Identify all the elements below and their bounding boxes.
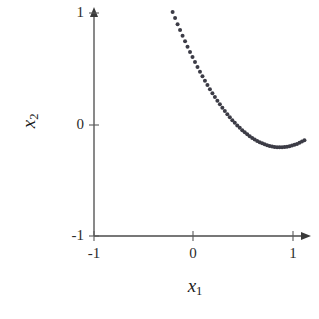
data-point xyxy=(191,55,195,59)
data-point xyxy=(171,10,175,14)
y-axis-title-base: x xyxy=(18,120,39,128)
x-axis-tick-label-0: 0 xyxy=(178,246,208,261)
y-axis-title: x2 xyxy=(19,99,41,143)
data-point xyxy=(181,34,185,38)
x-axis-tick-label-minus1: -1 xyxy=(79,246,109,261)
data-point xyxy=(178,28,182,32)
x-axis-arrowhead xyxy=(301,232,311,240)
y-axis-title-subscript: 2 xyxy=(27,113,41,119)
data-point xyxy=(213,95,217,99)
data-point xyxy=(193,60,197,64)
data-series-curve xyxy=(171,10,307,149)
data-point xyxy=(188,50,192,54)
data-point xyxy=(205,83,209,87)
x-axis-title-base: x xyxy=(188,275,196,296)
data-point xyxy=(302,138,306,142)
data-point xyxy=(183,39,187,43)
data-point xyxy=(218,102,222,106)
data-point xyxy=(195,65,199,69)
data-point xyxy=(200,74,204,78)
data-point xyxy=(173,16,177,20)
y-axis-tick-label-1: 1 xyxy=(60,5,84,20)
data-point xyxy=(203,79,207,83)
data-point xyxy=(176,22,180,26)
y-axis-tick-label-0: 0 xyxy=(60,117,84,132)
x-axis-title: x1 xyxy=(173,276,217,298)
data-point xyxy=(198,70,202,74)
data-point xyxy=(210,91,214,95)
y-axis-arrowhead xyxy=(90,7,98,17)
x-axis-tick-label-1: 1 xyxy=(278,246,308,261)
y-axis-tick-label-minus1: -1 xyxy=(56,228,84,243)
data-point xyxy=(208,87,212,91)
data-point xyxy=(186,45,190,49)
plot-area xyxy=(0,0,319,319)
x-axis-title-subscript: 1 xyxy=(196,284,202,298)
data-point xyxy=(223,109,227,113)
data-point xyxy=(215,99,219,103)
data-point xyxy=(220,106,224,110)
figure-panel: 1 0 -1 -1 0 1 x1 x2 xyxy=(0,0,319,319)
